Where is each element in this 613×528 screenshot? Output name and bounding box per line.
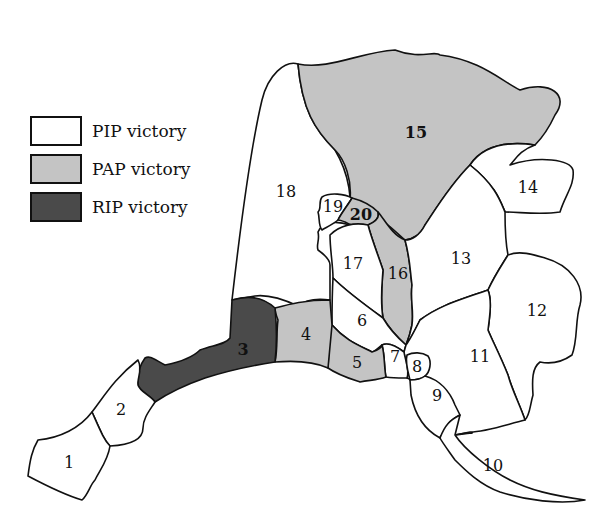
district-map: 1 2 3 4 5 6 7 8 9 10 11 12 13 14 15 16 1… <box>0 0 613 528</box>
label-5: 5 <box>352 353 362 372</box>
label-19: 19 <box>323 197 343 216</box>
label-20: 20 <box>350 205 372 224</box>
label-13: 13 <box>451 249 471 268</box>
label-3: 3 <box>237 340 248 359</box>
label-8: 8 <box>412 357 422 376</box>
label-9: 9 <box>432 386 442 405</box>
label-17: 17 <box>343 254 363 273</box>
label-7: 7 <box>390 347 400 366</box>
label-2: 2 <box>116 400 126 419</box>
label-1: 1 <box>64 453 74 472</box>
label-14: 14 <box>518 178 538 197</box>
label-4: 4 <box>301 325 311 344</box>
label-12: 12 <box>527 301 547 320</box>
label-10: 10 <box>483 456 503 475</box>
label-11: 11 <box>470 347 490 366</box>
label-15: 15 <box>405 123 427 142</box>
label-16: 16 <box>388 264 408 283</box>
label-6: 6 <box>357 311 367 330</box>
district-3[interactable] <box>138 297 277 402</box>
label-18: 18 <box>276 182 296 201</box>
